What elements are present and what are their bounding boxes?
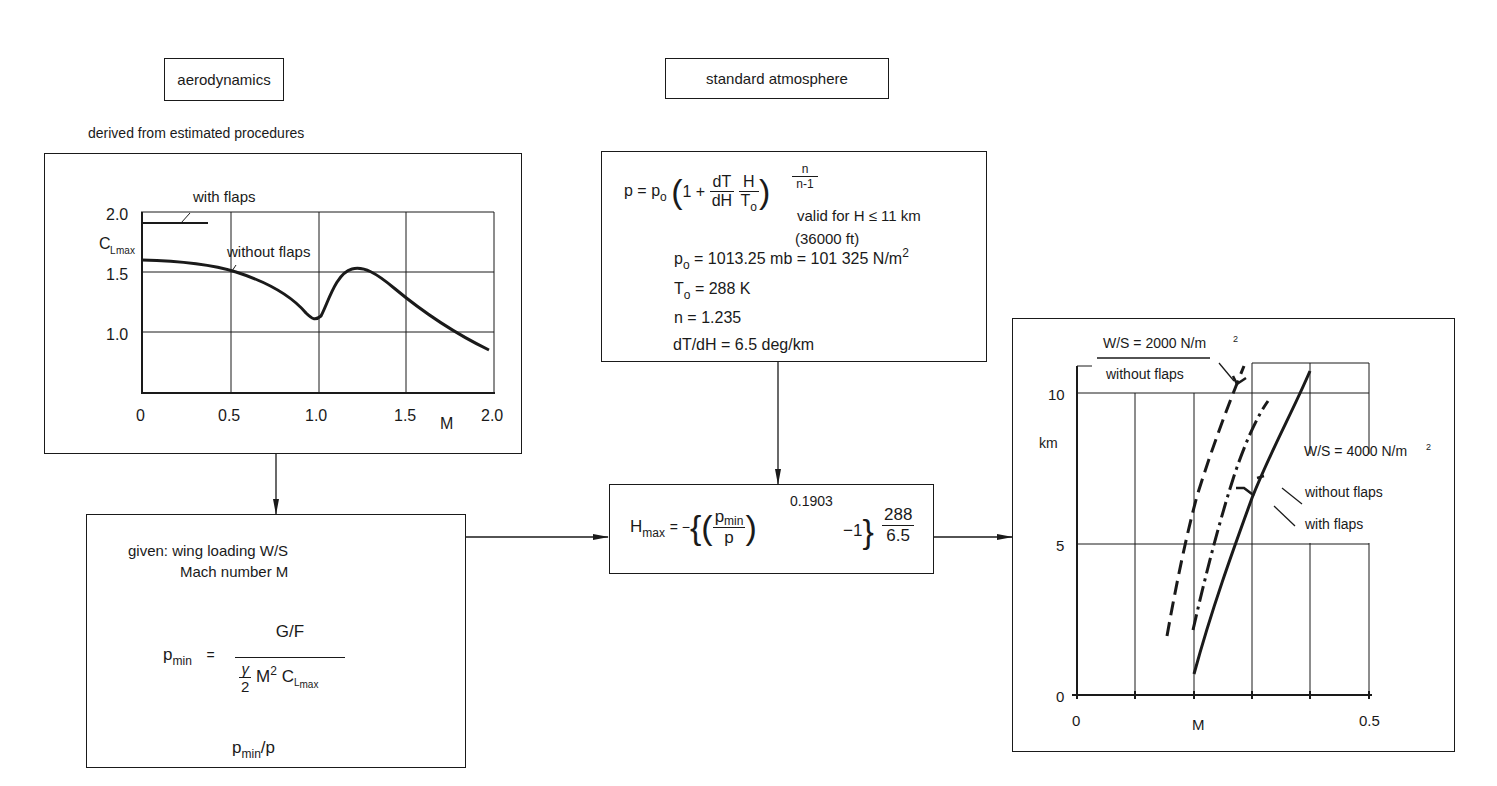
svg-text:max: max [116, 245, 135, 256]
aerodynamics-label: aerodynamics [177, 71, 270, 88]
x-tick-0: 0 [136, 407, 145, 424]
given-parameters-box: given: wing loading W/S Mach number M pm… [86, 514, 466, 768]
hmax-scale-fraction: 288 6.5 [882, 505, 914, 546]
p0-definition: po = 1013.25 mb = 101 325 N/m2 [674, 250, 909, 268]
pmin-denominator: γ2 M2 CLmax [239, 660, 318, 695]
ws2000-without-flaps-label: without flaps [1105, 366, 1184, 382]
given-line-2: Mach number M [180, 563, 288, 580]
pmin-numerator: G/F [235, 622, 345, 642]
hmax-equation-box: Hmax = −{(pminp) 0.1903 −1} 288 6.5 [609, 484, 934, 574]
ws4000-label: W/S = 4000 N/m [1304, 443, 1407, 459]
ws4000-with-flaps-curve [1193, 401, 1268, 630]
y-tick-0: 0 [1056, 688, 1064, 705]
y-axis-unit: km [1039, 435, 1058, 451]
without-flaps-label: without flaps [226, 243, 310, 260]
pmin-ratio: pmin/p [232, 738, 275, 758]
aero-subtitle: derived from estimated procedures [88, 125, 304, 141]
pmin-fraction-bar [235, 657, 345, 658]
ws2000-without-flaps-curve [1167, 366, 1244, 636]
pressure-equation: p = po (1 + dTdH HTo) [624, 172, 770, 211]
t0-definition: To = 288 K [674, 280, 751, 298]
x-tick-0-5: 0.5 [1359, 712, 1380, 729]
x-tick-1-5: 1.5 [394, 407, 416, 424]
x-tick-2-0: 2.0 [481, 407, 503, 424]
exponent-fraction: n n-1 [792, 162, 818, 191]
pmin-lhs: pmin = [163, 645, 215, 665]
altitude-vs-mach-chart: 10 5 0 km 0 M 0.5 W/S = 2000 N/m 2 witho… [1012, 318, 1455, 752]
hmax-exponent: 0.1903 [790, 493, 833, 509]
aerodynamics-header: aerodynamics [164, 58, 284, 101]
x-axis-label: M [1192, 716, 1205, 733]
hmax-equation: Hmax = −{(pminp) [630, 507, 757, 548]
ws2000-label: W/S = 2000 N/m [1103, 335, 1206, 351]
y-tick-5: 5 [1056, 537, 1064, 554]
clmax-vs-mach-chart: 2.0 1.5 1.0 0 0.5 1.0 1.5 2.0 M C L max … [44, 153, 522, 454]
x-tick-0: 0 [1072, 712, 1080, 729]
lapse-rate-definition: dT/dH = 6.5 deg/km [673, 336, 814, 354]
x-tick-1-0: 1.0 [305, 407, 327, 424]
y-axis-label: C [99, 235, 111, 252]
y-tick-1-0: 1.0 [106, 326, 128, 343]
ws4000-with-flaps-label: with flaps [1304, 516, 1363, 532]
validity-note: valid for H ≤ 11 km [797, 207, 921, 224]
validity-note-ft: (36000 ft) [795, 230, 859, 247]
ws4000-without-flaps-label: without flaps [1304, 484, 1383, 500]
hmax-minus-one: −1} [843, 512, 874, 551]
x-axis-label: M [440, 415, 453, 432]
altitude-vs-mach-chart-box: 10 5 0 km 0 M 0.5 W/S = 2000 N/m 2 witho… [1012, 318, 1455, 752]
y-tick-10: 10 [1048, 386, 1065, 403]
standard-atmosphere-header: standard atmosphere [665, 58, 889, 99]
svg-text:2: 2 [1233, 334, 1238, 344]
standard-atmosphere-label: standard atmosphere [706, 70, 848, 87]
aerodynamics-chart-box: 2.0 1.5 1.0 0 0.5 1.0 1.5 2.0 M C L max … [44, 153, 522, 454]
y-tick-2-0: 2.0 [106, 206, 128, 223]
n-definition: n = 1.235 [674, 309, 741, 327]
without-flaps-curve [142, 260, 489, 350]
y-tick-1-5: 1.5 [106, 266, 128, 283]
with-flaps-label: with flaps [192, 188, 256, 205]
given-line-1: given: wing loading W/S [128, 542, 288, 559]
x-tick-0-5: 0.5 [218, 407, 240, 424]
svg-text:2: 2 [1426, 442, 1431, 452]
standard-atmosphere-box: p = po (1 + dTdH HTo) n n-1 valid for H … [601, 151, 987, 362]
